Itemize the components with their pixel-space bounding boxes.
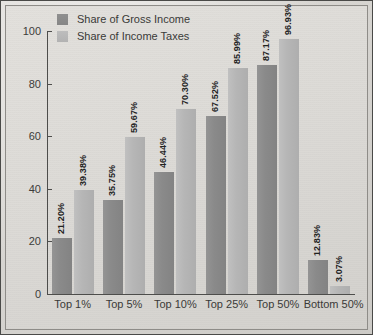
- y-axis-tick-label: 80: [13, 79, 41, 89]
- bar-group: 12.83%3.07%: [304, 31, 355, 294]
- bar[interactable]: [125, 137, 145, 294]
- x-axis-line: [47, 294, 355, 295]
- bar-value-label: 87.17%: [261, 30, 271, 61]
- legend-item-share-of-gross-income[interactable]: Share of Gross Income: [57, 12, 190, 26]
- legend-swatch-icon: [57, 14, 68, 25]
- bar[interactable]: [279, 39, 299, 294]
- bar[interactable]: [206, 116, 226, 294]
- bar-value-label: 85.99%: [232, 33, 242, 64]
- bar[interactable]: [52, 238, 72, 294]
- y-axis-tick-label: 100: [13, 26, 41, 36]
- x-axis-category-label: Top 50%: [252, 298, 303, 310]
- y-axis-tick-label: 20: [13, 236, 41, 246]
- y-axis-tick-label: 40: [13, 184, 41, 194]
- bar-value-label: 21.20%: [56, 203, 66, 234]
- bar-value-label: 39.38%: [78, 155, 88, 186]
- bar[interactable]: [74, 190, 94, 294]
- x-axis-category-label: Top 25%: [201, 298, 252, 310]
- y-axis-tick: [47, 294, 52, 295]
- bar[interactable]: [103, 200, 123, 294]
- bar-group: 21.20%39.38%: [47, 31, 98, 294]
- bar-group: 46.44%70.30%: [150, 31, 201, 294]
- bar[interactable]: [330, 286, 350, 294]
- bar[interactable]: [176, 109, 196, 294]
- bar-value-label: 35.75%: [107, 165, 117, 196]
- y-axis-tick-label: 0: [13, 289, 41, 299]
- x-axis-category-label: Bottom 50%: [304, 298, 355, 310]
- bar-group: 87.17%96.93%: [252, 31, 303, 294]
- bar[interactable]: [257, 65, 277, 294]
- x-axis-category-label: Top 1%: [47, 298, 98, 310]
- bar-value-label: 3.07%: [334, 256, 344, 282]
- bar[interactable]: [154, 172, 174, 294]
- bar-value-label: 12.83%: [312, 225, 322, 256]
- bar-value-label: 67.52%: [210, 81, 220, 112]
- bar-chart: Share of Gross Income Share of Income Ta…: [0, 0, 373, 335]
- bar-value-label: 70.30%: [180, 74, 190, 105]
- bar-value-label: 59.67%: [129, 102, 139, 133]
- legend-label: Share of Gross Income: [77, 13, 190, 25]
- bar-group: 67.52%85.99%: [201, 31, 252, 294]
- y-axis-tick-label: 60: [13, 131, 41, 141]
- bar-value-label: 96.93%: [283, 4, 293, 35]
- bar-value-label: 46.44%: [158, 137, 168, 168]
- bars-area: 21.20%39.38%35.75%59.67%46.44%70.30%67.5…: [47, 31, 355, 294]
- bar-group: 35.75%59.67%: [98, 31, 149, 294]
- x-axis-category-label: Top 5%: [98, 298, 149, 310]
- bar[interactable]: [228, 68, 248, 294]
- x-axis-category-label: Top 10%: [150, 298, 201, 310]
- bar[interactable]: [308, 260, 328, 294]
